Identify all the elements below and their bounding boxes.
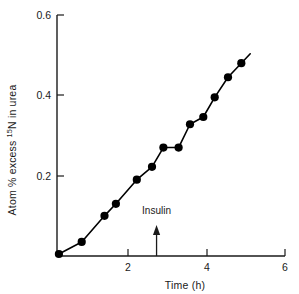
y-tick-label-0.6: 0.6 <box>36 9 51 21</box>
data-point <box>112 200 120 208</box>
y-axis-title-suffix: N in urea <box>6 85 18 129</box>
data-point <box>224 73 232 81</box>
y-tick-label-0.4: 0.4 <box>36 89 51 101</box>
x-tick-label-6: 6 <box>282 261 288 273</box>
data-point <box>78 238 86 246</box>
data-point <box>133 176 141 184</box>
data-point <box>211 93 219 101</box>
data-point <box>55 250 63 258</box>
insulin-annotation-label: Insulin <box>142 205 171 216</box>
data-point <box>237 59 245 67</box>
annotation-layer: Insulin <box>142 205 171 256</box>
y-axis-title: Atom % excess 15N in urea <box>5 85 18 216</box>
insulin-arrow-head <box>153 225 160 235</box>
data-point <box>175 143 183 151</box>
data-point <box>100 212 108 220</box>
x-axis-ticks <box>128 249 285 256</box>
y-tick-label-0.2: 0.2 <box>36 170 51 182</box>
figure-container: 0.6 0.4 0.2 2 4 6 Time (h) Atom % excess… <box>0 0 299 294</box>
y-axis-title-prefix: Atom % excess <box>6 137 18 215</box>
y-axis-title-superscript: 15 <box>5 129 14 137</box>
x-tick-label-4: 4 <box>204 261 210 273</box>
series-line <box>59 54 250 254</box>
axes-group <box>57 15 285 256</box>
x-axis-title: Time (h) <box>165 279 205 291</box>
svg-text:Atom % excess 15N in urea: Atom % excess 15N in urea <box>5 85 18 216</box>
x-tick-label-2: 2 <box>125 261 131 273</box>
y-axis-ticks <box>57 15 64 176</box>
data-point <box>159 143 167 151</box>
data-point <box>148 163 156 171</box>
data-point <box>199 113 207 121</box>
line-chart: 0.6 0.4 0.2 2 4 6 Time (h) Atom % excess… <box>0 0 299 294</box>
data-point <box>186 120 194 128</box>
data-series-layer <box>55 54 250 258</box>
